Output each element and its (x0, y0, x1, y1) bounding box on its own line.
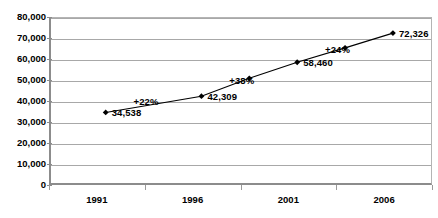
data-point-marker (199, 93, 205, 99)
x-axis-tick-label: 1996 (182, 194, 203, 205)
y-axis-tick-label: 40,000 (0, 95, 46, 106)
x-axis-tick-mark (432, 185, 433, 190)
y-axis-tick-label: 50,000 (0, 74, 46, 85)
x-axis-tick-mark (49, 185, 50, 190)
y-axis-tick-label: 30,000 (0, 116, 46, 127)
x-axis-tick-mark (336, 185, 337, 190)
y-axis-tick-label: 60,000 (0, 53, 46, 64)
growth-rate-annotation: +24% (325, 44, 350, 55)
y-axis-tick-label: 0 (0, 179, 46, 190)
y-axis-tick-label: 10,000 (0, 158, 46, 169)
data-point-marker (294, 59, 300, 65)
data-point-marker (103, 110, 109, 116)
growth-rate-annotation: +22% (134, 96, 159, 107)
x-axis-tick-label: 1991 (86, 194, 107, 205)
x-axis-tick-label: 2006 (374, 194, 395, 205)
x-axis-tick-label: 2001 (278, 194, 299, 205)
line-series (49, 17, 432, 185)
data-point-marker (390, 30, 396, 36)
chart-container: 010,00020,00030,00040,00050,00060,00070,… (0, 0, 438, 218)
point-value-label: 34,538 (112, 107, 142, 118)
x-axis-tick-mark (241, 185, 242, 190)
point-value-label: 58,460 (303, 57, 333, 68)
y-axis-tick-label: 20,000 (0, 137, 46, 148)
y-axis-tick-label: 80,000 (0, 11, 46, 22)
point-value-label: 42,309 (207, 91, 237, 102)
growth-rate-annotation: +38% (229, 75, 254, 86)
x-axis-tick-mark (145, 185, 146, 190)
y-axis-tick-label: 70,000 (0, 32, 46, 43)
point-value-label: 72,326 (399, 28, 429, 39)
